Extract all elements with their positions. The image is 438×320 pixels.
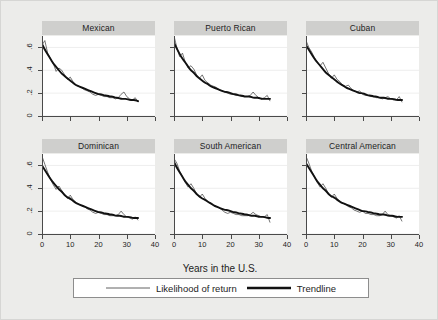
small-multiples-grid: Mexican0.2.4.6Puerto RicanCubanDominican… xyxy=(23,21,419,261)
y-tick-label: 0 xyxy=(25,227,34,241)
x-tick-label: 0 xyxy=(298,240,314,249)
y-tick xyxy=(170,188,174,189)
y-tick-label: .4 xyxy=(25,63,34,77)
y-tick xyxy=(170,211,174,212)
x-tick xyxy=(391,117,392,121)
x-tick-label: 20 xyxy=(91,240,107,249)
y-tick-label: .6 xyxy=(25,158,34,172)
y-axis-line xyxy=(174,36,175,116)
y-tick xyxy=(38,211,42,212)
x-tick xyxy=(231,235,232,239)
x-tick xyxy=(127,117,128,121)
x-tick xyxy=(334,117,335,121)
x-tick xyxy=(99,235,100,239)
y-tick xyxy=(170,47,174,48)
y-tick xyxy=(302,70,306,71)
panel-south-american: South American010203040 xyxy=(155,139,287,255)
x-tick xyxy=(259,117,260,121)
x-tick xyxy=(42,235,43,239)
x-tick xyxy=(42,117,43,121)
x-tick xyxy=(231,117,232,121)
chart-legend: Likelihood of return Trendline xyxy=(73,278,369,298)
x-tick xyxy=(202,235,203,239)
x-tick-label: 30 xyxy=(119,240,135,249)
panel-title: South American xyxy=(174,139,287,153)
series-likelihood-of-return xyxy=(174,159,270,223)
y-tick xyxy=(302,47,306,48)
legend-item-trendline: Trendline xyxy=(247,283,336,294)
series-canvas xyxy=(42,154,155,234)
plot-area xyxy=(306,154,419,234)
x-tick xyxy=(306,235,307,239)
x-tick xyxy=(363,235,364,239)
x-tick xyxy=(70,235,71,239)
x-tick-label: 30 xyxy=(383,240,399,249)
y-tick xyxy=(170,165,174,166)
x-tick xyxy=(202,117,203,121)
series-canvas xyxy=(42,36,155,116)
panel-cuban: Cuban xyxy=(287,21,419,137)
plot-area xyxy=(306,36,419,116)
legend-thick-line-icon xyxy=(247,285,291,291)
x-tick xyxy=(70,117,71,121)
y-tick xyxy=(302,211,306,212)
panel-title: Central American xyxy=(306,139,419,153)
y-axis-line xyxy=(174,154,175,234)
x-tick xyxy=(334,235,335,239)
x-tick xyxy=(306,117,307,121)
panel-row-1: Dominican0.2.4.6010203040South American0… xyxy=(23,139,419,255)
x-tick-label: 10 xyxy=(326,240,342,249)
series-canvas xyxy=(174,154,287,234)
series-canvas xyxy=(306,36,419,116)
series-canvas xyxy=(306,154,419,234)
y-axis-line xyxy=(42,36,43,116)
y-tick-label: .6 xyxy=(25,40,34,54)
legend-thin-line-icon xyxy=(106,285,150,291)
series-trendline xyxy=(174,162,270,218)
series-trendline xyxy=(174,43,270,99)
y-axis-line xyxy=(42,154,43,234)
y-axis-line xyxy=(306,36,307,116)
x-tick-label: 40 xyxy=(411,240,427,249)
x-tick-label: 20 xyxy=(223,240,239,249)
panel-central-american: Central American010203040 xyxy=(287,139,419,255)
panel-mexican: Mexican0.2.4.6 xyxy=(23,21,155,137)
x-tick xyxy=(363,117,364,121)
panel-title: Cuban xyxy=(306,21,419,35)
legend-label-likelihood: Likelihood of return xyxy=(156,283,237,294)
x-tick xyxy=(419,117,420,121)
x-tick-label: 10 xyxy=(62,240,78,249)
legend-label-trendline: Trendline xyxy=(297,283,336,294)
y-tick-label: .2 xyxy=(25,204,34,218)
x-tick xyxy=(259,235,260,239)
y-axis-line xyxy=(306,154,307,234)
x-tick-label: 0 xyxy=(166,240,182,249)
series-trendline xyxy=(306,45,402,100)
series-canvas xyxy=(174,36,287,116)
panel-dominican: Dominican0.2.4.6010203040 xyxy=(23,139,155,255)
y-tick xyxy=(302,165,306,166)
x-tick xyxy=(174,117,175,121)
x-tick-label: 0 xyxy=(34,240,50,249)
series-trendline xyxy=(306,163,402,217)
plot-area xyxy=(174,154,287,234)
panel-title: Mexican xyxy=(42,21,155,35)
x-tick xyxy=(127,235,128,239)
y-tick xyxy=(170,93,174,94)
y-tick xyxy=(38,70,42,71)
y-tick xyxy=(38,165,42,166)
figure-panel: Mexican0.2.4.6Puerto RicanCubanDominican… xyxy=(0,0,438,320)
y-tick xyxy=(38,188,42,189)
y-tick xyxy=(170,70,174,71)
x-tick xyxy=(419,235,420,239)
series-likelihood-of-return xyxy=(306,156,402,221)
y-tick xyxy=(38,93,42,94)
panel-row-0: Mexican0.2.4.6Puerto RicanCuban xyxy=(23,21,419,137)
plot-area xyxy=(42,36,155,116)
plot-area xyxy=(174,36,287,116)
y-tick xyxy=(302,188,306,189)
x-tick-label: 20 xyxy=(355,240,371,249)
x-tick xyxy=(174,235,175,239)
x-tick-label: 10 xyxy=(194,240,210,249)
y-tick-label: .2 xyxy=(25,86,34,100)
